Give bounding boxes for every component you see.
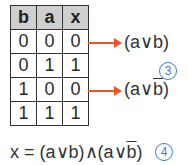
- row3-expression: (a∨b): [124, 78, 169, 100]
- header-x: x: [63, 6, 89, 30]
- header-b: b: [11, 6, 37, 30]
- cell: 1: [11, 102, 37, 126]
- table-row: 0 1 1: [11, 54, 89, 78]
- cell: 1: [37, 54, 63, 78]
- truth-table: b a x 0 0 0 0 1 1 1 0 0 1 1 1: [10, 5, 89, 126]
- result-formula: x = (a∨b)∧(a∨b): [10, 141, 143, 163]
- arrow-icon-row1: [88, 42, 120, 44]
- cell: 1: [37, 102, 63, 126]
- cell: 1: [63, 54, 89, 78]
- cell: 0: [37, 30, 63, 54]
- cell: 1: [63, 102, 89, 126]
- cell: 0: [11, 30, 37, 54]
- table-row: 0 0 0: [11, 30, 89, 54]
- cell: 0: [11, 54, 37, 78]
- arrow-icon-row3: [88, 90, 120, 92]
- cell: 1: [11, 78, 37, 102]
- cell: 0: [63, 78, 89, 102]
- table-row: 1 1 1: [11, 102, 89, 126]
- cell: 0: [63, 30, 89, 54]
- marker-4-icon: 4: [155, 143, 173, 161]
- cell: 0: [37, 78, 63, 102]
- table-header-row: b a x: [11, 6, 89, 30]
- row1-expression: (a∨b): [124, 31, 169, 53]
- header-a: a: [37, 6, 63, 30]
- table-row: 1 0 0: [11, 78, 89, 102]
